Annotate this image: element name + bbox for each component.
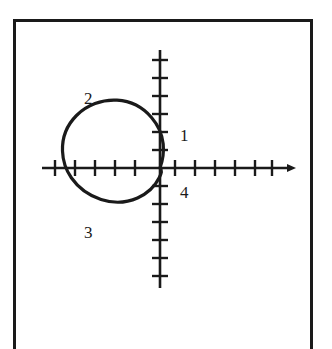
x-axis-group <box>42 160 288 176</box>
arc-label-3: 3 <box>84 224 93 241</box>
cardioid-curve <box>62 100 163 202</box>
arc-label-2: 2 <box>84 90 93 107</box>
arc-label-4: 4 <box>180 184 189 201</box>
arc-label-1: 1 <box>180 127 189 144</box>
